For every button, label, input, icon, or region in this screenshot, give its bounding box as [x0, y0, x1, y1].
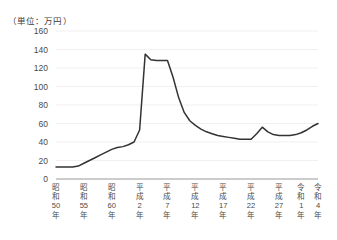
x-axis-tick-label-part: 年 — [134, 211, 146, 220]
x-axis-tick-label-part: 年 — [273, 211, 285, 220]
data-series-line — [56, 31, 318, 179]
x-axis-tick-label-part: 年 — [312, 211, 324, 220]
x-axis-tick-label: 平成22年 — [245, 183, 257, 220]
x-axis-tick-label: 令和1年 — [295, 183, 307, 220]
y-axis-tick-label: 0 — [43, 174, 48, 184]
line-series-path — [56, 54, 318, 167]
x-axis-tick-label-part: 60 — [106, 201, 118, 210]
x-axis-tick-label-part: 平 — [189, 183, 201, 192]
x-axis-tick-label-part: 和 — [78, 192, 90, 201]
x-axis-tick-label: 平成27年 — [273, 183, 285, 220]
x-axis-tick-label-part: 成 — [134, 192, 146, 201]
x-axis: 昭和50年昭和55年昭和60年平成2年平成7年平成12年平成17年平成22年平成… — [56, 183, 318, 239]
x-axis-tick-label-part: 平 — [134, 183, 146, 192]
y-axis-tick-label: 40 — [39, 137, 48, 147]
x-axis-tick-label: 平成2年 — [134, 183, 146, 220]
plot-area — [56, 31, 318, 179]
x-axis-tick-label-part: 成 — [217, 192, 229, 201]
x-axis-tick-label-part: 22 — [245, 201, 257, 210]
y-axis-tick-label: 100 — [34, 82, 48, 92]
x-axis-tick-label-part: 年 — [245, 211, 257, 220]
x-axis-tick-label-part: 成 — [189, 192, 201, 201]
x-axis-tick-label-part: 17 — [217, 201, 229, 210]
x-axis-tick-label-part: 和 — [295, 192, 307, 201]
y-axis-tick-label: 160 — [34, 26, 48, 36]
x-axis-tick-label-part: 27 — [273, 201, 285, 210]
x-axis-tick-label-part: 令 — [312, 183, 324, 192]
x-axis-tick-label-part: 和 — [50, 192, 62, 201]
x-axis-tick-label-part: 年 — [78, 211, 90, 220]
x-axis-tick-label-part: 年 — [189, 211, 201, 220]
x-axis-tick-label: 平成17年 — [217, 183, 229, 220]
x-axis-tick-label-part: 2 — [134, 201, 146, 210]
x-axis-tick-label-part: 1 — [295, 201, 307, 210]
x-axis-tick-label-part: 年 — [106, 211, 118, 220]
y-axis-tick-label: 60 — [39, 119, 48, 129]
y-axis-tick-label: 140 — [34, 45, 48, 55]
x-axis-tick-label-part: 昭 — [78, 183, 90, 192]
x-axis-tick-label-part: 平 — [217, 183, 229, 192]
x-axis-tick-label-part: 成 — [161, 192, 173, 201]
x-axis-tick-label: 平成7年 — [161, 183, 173, 220]
land-price-line-chart: （単位：万円） 020406080100120140160 昭和50年昭和55年… — [0, 0, 337, 240]
unit-caption: （単位：万円） — [8, 14, 72, 26]
x-axis-tick-label-part: 昭 — [106, 183, 118, 192]
x-axis-tick-label: 昭和50年 — [50, 183, 62, 220]
x-axis-tick-label-part: 年 — [50, 211, 62, 220]
x-axis-tick-label: 昭和55年 — [78, 183, 90, 220]
x-axis-tick-label-part: 50 — [50, 201, 62, 210]
x-axis-tick-label-part: 7 — [161, 201, 173, 210]
x-axis-tick-label: 昭和60年 — [106, 183, 118, 220]
x-axis-tick-label-part: 年 — [217, 211, 229, 220]
y-axis-tick-label: 80 — [39, 100, 48, 110]
x-axis-tick-label: 令和4年 — [312, 183, 324, 220]
y-axis-tick-label: 120 — [34, 63, 48, 73]
x-axis-tick-label-part: 55 — [78, 201, 90, 210]
x-axis-tick-label-part: 令 — [295, 183, 307, 192]
x-axis-tick-label-part: 和 — [312, 192, 324, 201]
x-axis-tick-label-part: 平 — [161, 183, 173, 192]
x-axis-tick-label: 平成12年 — [189, 183, 201, 220]
x-axis-tick-label-part: 年 — [161, 211, 173, 220]
x-axis-tick-label-part: 4 — [312, 201, 324, 210]
x-axis-tick-label-part: 成 — [245, 192, 257, 201]
x-axis-tick-label-part: 12 — [189, 201, 201, 210]
x-axis-tick-label-part: 和 — [106, 192, 118, 201]
y-axis: 020406080100120140160 — [0, 31, 52, 179]
y-axis-tick-label: 20 — [39, 156, 48, 166]
x-axis-tick-label-part: 昭 — [50, 183, 62, 192]
x-axis-tick-label-part: 成 — [273, 192, 285, 201]
x-axis-tick-label-part: 平 — [245, 183, 257, 192]
x-axis-tick-label-part: 平 — [273, 183, 285, 192]
x-axis-tick-label-part: 年 — [295, 211, 307, 220]
